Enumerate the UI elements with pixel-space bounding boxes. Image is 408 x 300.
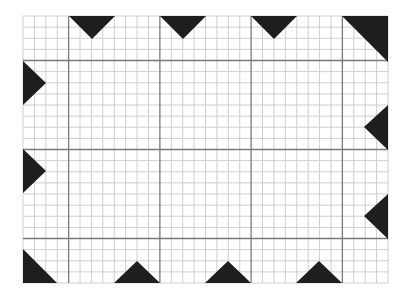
grid-diagram (0, 0, 408, 300)
